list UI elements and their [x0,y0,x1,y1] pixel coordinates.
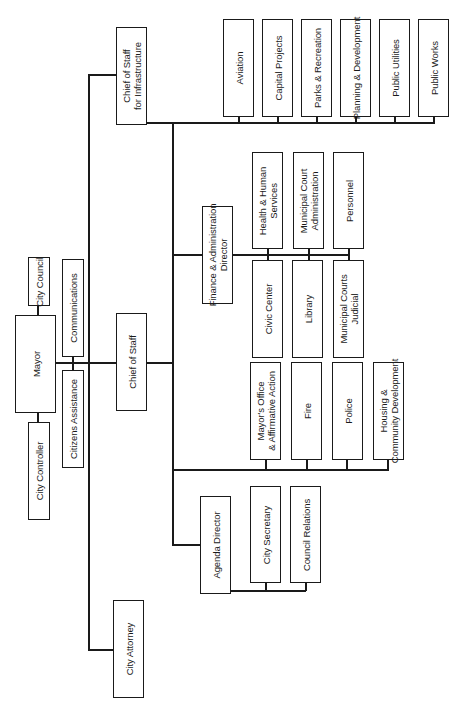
node-agenda-director: Agenda Director [200,496,231,594]
node-library: Library [292,260,323,358]
connector [172,254,202,256]
node-city-secretary: City Secretary [250,486,281,583]
connector [265,459,267,470]
node-planning: Planning & Development [340,19,371,117]
node-label: Housing & Community Development [378,359,400,464]
node-parks: Parks & Recreation [301,19,332,117]
node-fire: Fire [291,362,322,460]
node-health: Health & Human Services [252,152,283,249]
node-public-works: Public Works [418,19,449,117]
node-capital-projects: Capital Projects [262,19,293,117]
connector [238,116,240,123]
node-label: Civic Center [262,284,273,335]
node-label: Municipal Court Administration [298,168,320,233]
node-label: Communications [68,273,79,342]
connector [88,649,113,651]
node-city-controller: City Controller [28,422,50,520]
connector [172,469,389,471]
node-personnel: Personnel [333,152,364,249]
node-label: Health & Human Services [257,166,279,234]
node-label: Mayor [30,351,41,377]
node-label: Municipal Courts Judicial [338,274,360,343]
node-label: Capital Projects [272,36,283,101]
connector [172,122,174,545]
connector [277,116,279,123]
connector [346,459,348,470]
node-aviation: Aviation [223,19,254,117]
node-label: Public Works [428,41,439,95]
node-label: Fire [301,403,312,419]
node-label: Mayor's Office & Affirmative Action [255,371,277,451]
connector [146,122,435,124]
node-mayor: Mayor [15,315,56,413]
node-label: Planning & Development [350,17,361,119]
connector [72,356,74,371]
node-label: Personnel [343,180,354,222]
node-label: City Council [34,257,45,306]
node-label: City Attorney [123,623,134,676]
node-city-attorney: City Attorney [113,600,144,698]
node-chief-infrastructure: Chief of Staff for Infrastructure [116,27,147,125]
node-label: Chief of Staff [126,335,137,388]
connector [394,116,396,123]
node-label: Council Relations [300,498,311,570]
node-finance-director: Finance & Administration Director [202,206,233,304]
node-police: Police [332,362,363,460]
node-label: Public Utilities [389,39,400,97]
connector [306,459,308,470]
node-label: Parks & Recreation [311,28,322,108]
node-muni-courts-judicial: Municipal Courts Judicial [333,260,364,358]
node-label: Police [342,398,353,423]
node-label: Aviation [233,52,244,85]
node-public-utilities: Public Utilities [379,19,410,117]
node-housing: Housing & Community Development [373,362,404,460]
node-label: Citizens Assistance [68,379,79,459]
connector [265,582,267,591]
node-label: Agenda Director [210,511,221,578]
node-label: Finance & Administration Director [207,204,229,307]
node-council-relations: Council Relations [290,486,321,583]
node-city-council: City Council [28,257,50,306]
connector [230,590,306,592]
connector [88,74,116,76]
connector [305,582,307,591]
node-communications: Communications [62,259,84,357]
connector [433,116,435,123]
node-label: Chief of Staff for Infrastructure [121,42,143,110]
node-citizens-assistance: Citizens Assistance [62,370,84,468]
connector [316,116,318,123]
node-mayors-office: Mayor's Office & Affirmative Action [250,362,281,460]
connector [88,74,90,651]
node-chief-of-staff: Chief of Staff [116,313,147,411]
connector [232,254,349,256]
org-chart: City Council Mayor City Controller Commu… [0,0,462,714]
node-label: Library [302,295,313,323]
node-muni-court-admin: Municipal Court Administration [293,152,324,249]
node-label: City Controller [34,442,45,501]
node-label: City Secretary [260,505,271,563]
connector [172,544,200,546]
node-civic-center: Civic Center [252,260,283,358]
